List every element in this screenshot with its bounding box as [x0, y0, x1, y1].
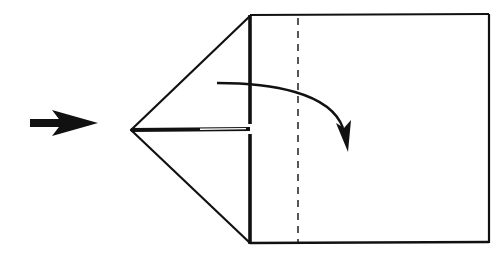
diagram-svg — [0, 0, 496, 269]
center-crease — [131, 129, 250, 130]
curved-fold-arrow-icon — [217, 83, 351, 152]
square-paper — [250, 14, 489, 244]
push-arrow-icon — [30, 110, 98, 136]
origami-diagram — [0, 0, 496, 269]
